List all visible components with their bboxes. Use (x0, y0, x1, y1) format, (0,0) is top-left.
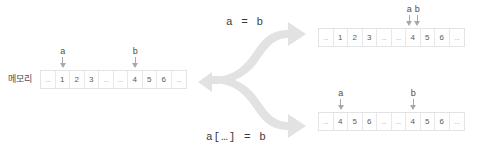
memory-cell: 6 (157, 71, 172, 88)
memory-cell: 4 (406, 29, 421, 46)
memory-cell-ellipsis: ... (99, 71, 114, 88)
memory-cell: 5 (421, 113, 436, 130)
memory-cell: 6 (363, 113, 378, 130)
memory-cell: 6 (435, 29, 450, 46)
fork-arrow-icon (190, 10, 310, 150)
memory-cell-ellipsis: ... (392, 113, 407, 130)
memory-cell-ellipsis: ... (114, 71, 129, 88)
memory-cell: 1 (56, 71, 71, 88)
result-array-bottom: ...456......456... (318, 112, 465, 131)
memory-cell-ellipsis: ... (450, 29, 465, 46)
memory-cell: 4 (406, 113, 421, 130)
memory-cell: 6 (435, 113, 450, 130)
pointer-label: a (60, 46, 65, 56)
pointer-b-top: b (410, 4, 424, 27)
memory-cell: 5 (421, 29, 436, 46)
pointer-label: b (133, 46, 138, 56)
pointer-label: a (338, 88, 343, 98)
memory-cell: 3 (85, 71, 100, 88)
memory-cell: 4 (334, 113, 349, 130)
pointer-a-bottom: a (334, 88, 348, 111)
memory-cell-ellipsis: ... (172, 71, 187, 88)
memory-cell-ellipsis: ... (41, 71, 56, 88)
memory-cell: 5 (348, 113, 363, 130)
pointer-label: b (415, 4, 420, 14)
memory-cell: 5 (143, 71, 158, 88)
pointer-b-bottom: b (406, 88, 420, 111)
diagram-canvas: 메모리 ...123......456... a b a = b ...123.… (0, 0, 480, 160)
memory-cell-ellipsis: ... (392, 29, 407, 46)
memory-cell: 4 (128, 71, 143, 88)
memory-cell: 2 (348, 29, 363, 46)
memory-cell: 2 (70, 71, 85, 88)
pointer-label: b (411, 88, 416, 98)
memory-cell-ellipsis: ... (319, 29, 334, 46)
branch-label-reference-assignment: a = b (226, 16, 264, 28)
memory-label: 메모리 (8, 72, 32, 85)
result-array-top: ...123......456... (318, 28, 465, 47)
pointer-arrow-icon (132, 57, 139, 69)
source-array: ...123......456... (40, 70, 187, 89)
branch-label-slice-assignment: a[…] = b (206, 131, 267, 143)
memory-cell-ellipsis: ... (377, 113, 392, 130)
memory-cell: 3 (363, 29, 378, 46)
pointer-a-source: a (56, 46, 70, 69)
pointer-b-source: b (128, 46, 142, 69)
pointer-arrow-icon (337, 99, 344, 111)
pointer-arrow-icon (59, 57, 66, 69)
memory-cell-ellipsis: ... (319, 113, 334, 130)
memory-cell: 1 (334, 29, 349, 46)
memory-cell-ellipsis: ... (377, 29, 392, 46)
memory-cell-ellipsis: ... (450, 113, 465, 130)
pointer-arrow-icon (410, 99, 417, 111)
pointer-arrow-icon (414, 15, 421, 27)
